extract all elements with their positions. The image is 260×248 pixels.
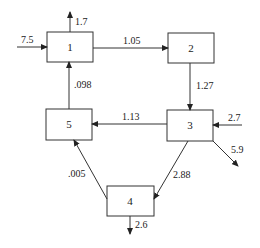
node-5-label: 5 — [66, 118, 72, 130]
edge-4-out-label: 2.6 — [135, 219, 148, 230]
flow-diagram: 1 2 3 4 5 7.5 1.7 1.05 1.27 2.7 5.9 — [0, 0, 260, 248]
edge-4-out: 2.6 — [130, 216, 148, 234]
edge-3-5-label: 1.13 — [122, 111, 140, 122]
edge-in-3: 2.7 — [213, 112, 242, 125]
edge-in-1-label: 7.5 — [21, 34, 34, 45]
edge-5-1: .098 — [69, 62, 92, 109]
node-1: 1 — [47, 32, 93, 62]
edge-3-out: 5.9 — [213, 141, 244, 166]
node-5: 5 — [46, 109, 92, 140]
edge-3-out-label: 5.9 — [231, 144, 244, 155]
edge-in-1: 7.5 — [17, 34, 47, 47]
edge-1-2-label: 1.05 — [123, 35, 141, 46]
edge-4-5-label: .005 — [68, 168, 86, 179]
edge-3-5: 1.13 — [92, 111, 167, 124]
edge-3-4-label: 2.88 — [173, 169, 191, 180]
node-3-label: 3 — [187, 119, 193, 131]
edge-2-3: 1.27 — [190, 63, 214, 110]
edge-3-4: 2.88 — [154, 141, 191, 199]
edge-1-2: 1.05 — [93, 35, 168, 48]
node-4-label: 4 — [127, 195, 133, 207]
node-1-label: 1 — [67, 41, 73, 53]
edge-1-out: 1.7 — [70, 12, 88, 32]
node-3: 3 — [167, 110, 213, 141]
edge-5-1-label: .098 — [74, 79, 92, 90]
node-4: 4 — [107, 186, 154, 216]
edge-2-3-label: 1.27 — [196, 80, 214, 91]
edge-1-out-label: 1.7 — [75, 16, 88, 27]
node-2: 2 — [168, 33, 214, 63]
edge-4-5: .005 — [68, 140, 107, 199]
node-2-label: 2 — [188, 42, 194, 54]
edge-in-3-label: 2.7 — [228, 112, 241, 123]
